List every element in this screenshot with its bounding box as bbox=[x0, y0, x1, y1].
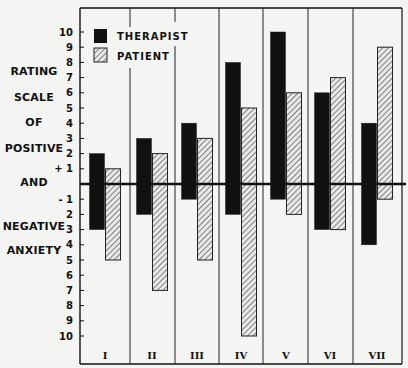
y-axis-title-line: RATING bbox=[10, 65, 57, 78]
y-tick-label: 3 bbox=[66, 133, 73, 144]
x-category-label: VII bbox=[367, 350, 385, 361]
therapist-bar-iv bbox=[226, 62, 241, 214]
y-tick-label: 3 bbox=[66, 224, 73, 235]
y-axis-title: RATINGSCALEOFPOSITIVEANDNEGATIVEANXIETY bbox=[3, 65, 66, 257]
y-tick-label: 5 bbox=[66, 103, 73, 114]
y-axis-title-line: SCALE bbox=[14, 91, 54, 104]
patient-bar-vi bbox=[331, 78, 346, 230]
y-tick-label: 5 bbox=[66, 255, 73, 266]
patient-bar-ii bbox=[153, 154, 168, 291]
legend-label-therapist: THERAPIST bbox=[117, 31, 189, 42]
x-category-label: I bbox=[103, 350, 108, 361]
x-category-label: III bbox=[190, 350, 204, 361]
patient-bar-iii bbox=[198, 138, 213, 260]
y-tick-label: 9 bbox=[66, 315, 73, 326]
therapist-bar-vi bbox=[315, 93, 330, 230]
patient-bar-vii bbox=[378, 47, 393, 199]
therapist-bar-iii bbox=[182, 123, 197, 199]
x-axis-categories: IIIIIIIVVVIVII bbox=[103, 350, 386, 361]
y-tick-label: 4 bbox=[66, 239, 73, 250]
legend-swatch-patient bbox=[94, 48, 107, 62]
anxiety-rating-chart: RATINGSCALEOFPOSITIVEANDNEGATIVEANXIETY … bbox=[0, 0, 408, 368]
patient-bar-i bbox=[106, 169, 121, 260]
legend-label-patient: PATIENT bbox=[117, 51, 170, 62]
x-category-label: V bbox=[281, 350, 290, 361]
y-tick-label: 6 bbox=[66, 270, 73, 281]
y-axis-title-line: NEGATIVE bbox=[3, 220, 66, 233]
patient-bar-v bbox=[287, 93, 302, 215]
y-tick-label: - 1 bbox=[58, 194, 73, 205]
y-tick-label: 10 bbox=[59, 331, 73, 342]
y-tick-label: 10 bbox=[59, 27, 73, 38]
y-axis-title-line: AND bbox=[20, 176, 47, 189]
y-tick-label: 4 bbox=[66, 118, 73, 129]
y-tick-label: + 1 bbox=[54, 163, 73, 174]
y-tick-label: 2 bbox=[66, 148, 73, 159]
y-tick-label: 8 bbox=[66, 300, 73, 311]
x-category-label: IV bbox=[235, 350, 248, 361]
x-category-label: II bbox=[147, 350, 157, 361]
y-tick-label: 9 bbox=[66, 42, 73, 53]
therapist-bar-ii bbox=[137, 138, 152, 214]
y-tick-label: 7 bbox=[66, 285, 73, 296]
y-tick-label: 8 bbox=[66, 57, 73, 68]
y-tick-label: 7 bbox=[66, 72, 73, 83]
y-tick-label: 2 bbox=[66, 209, 73, 220]
patient-bar-iv bbox=[242, 108, 257, 336]
legend-swatch-therapist bbox=[94, 29, 107, 43]
therapist-bar-v bbox=[271, 32, 286, 199]
y-axis-title-line: ANXIETY bbox=[7, 244, 63, 257]
therapist-bar-i bbox=[90, 154, 105, 230]
y-axis-title-line: POSITIVE bbox=[5, 142, 64, 155]
y-tick-label: 6 bbox=[66, 87, 73, 98]
x-category-label: VI bbox=[323, 350, 337, 361]
legend: THERAPISTPATIENT bbox=[94, 29, 189, 62]
y-axis-title-line: OF bbox=[25, 116, 42, 129]
